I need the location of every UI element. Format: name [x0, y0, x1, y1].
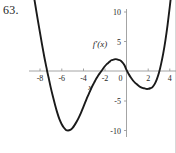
- x-tick-label-4: 4: [168, 74, 172, 83]
- y-tick-label--5: -5: [114, 97, 121, 106]
- function-label: f'(x): [93, 39, 107, 49]
- y-tick-label-10: 10: [113, 8, 121, 17]
- figure-container: 63. -8 -6 -4 -2 0 2 4 10 5 -5 -10 x f: [0, 0, 176, 153]
- x-tick-label--4: -4: [80, 74, 87, 83]
- derivative-curve: [33, 0, 171, 131]
- x-tick-label-2: 2: [146, 74, 150, 83]
- x-tick-label-0: 0: [119, 74, 123, 83]
- y-tick-label-5: 5: [117, 38, 121, 47]
- y-tick-label--10: -10: [110, 127, 121, 136]
- x-tick-label--6: -6: [58, 74, 65, 83]
- plot-area: -8 -6 -4 -2 0 2 4 10 5 -5 -10 x f'(x): [0, 0, 176, 153]
- x-tick-label--2: -2: [102, 74, 109, 83]
- x-tick-label--8: -8: [37, 74, 44, 83]
